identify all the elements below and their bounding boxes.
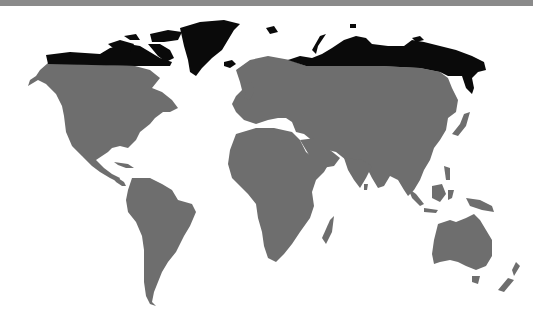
borneo: [432, 184, 446, 202]
sumatra: [408, 188, 424, 206]
cuba: [114, 162, 134, 168]
java: [424, 208, 438, 213]
world-map-svg: [0, 0, 533, 324]
iceland: [224, 60, 236, 68]
central-america: [110, 174, 126, 186]
svalbard: [266, 26, 278, 34]
north-america: [28, 63, 178, 182]
land-regions: [28, 56, 520, 306]
philippines: [444, 166, 450, 180]
south-america: [126, 178, 196, 306]
madagascar: [322, 216, 334, 244]
new-zealand: [498, 262, 520, 292]
novaya-zemlya: [312, 34, 326, 54]
sri-lanka: [364, 184, 368, 190]
sulawesi: [448, 190, 454, 200]
franz-josef-land: [350, 24, 356, 28]
japan: [452, 112, 470, 136]
australia: [432, 214, 492, 270]
new-guinea: [466, 198, 494, 212]
world-map: [0, 0, 533, 324]
greenland: [180, 20, 240, 76]
tasmania: [472, 276, 480, 284]
